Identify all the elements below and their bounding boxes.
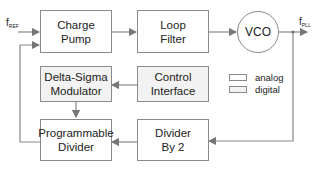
legend-analog-label: analog [255, 72, 284, 83]
programmable-divider-block: Programmable Divider [40, 119, 112, 161]
loop-filter-block: Loop Filter [137, 10, 209, 53]
delta-sigma-modulator-block: Delta-Sigma Modulator [40, 66, 112, 102]
legend-digital: digital [229, 84, 280, 95]
charge-pump-block: Charge Pump [40, 10, 112, 53]
divider-by-2-block: Divider By 2 [137, 119, 209, 161]
fref-label: fREF [6, 17, 19, 29]
digital-swatch [229, 86, 247, 93]
fpll-label: fPLL [299, 16, 311, 28]
control-interface-block: Control Interface [137, 66, 209, 102]
vco-block: VCO [237, 11, 279, 53]
legend-digital-label: digital [255, 84, 280, 95]
analog-swatch [229, 74, 247, 81]
legend-analog: analog [229, 72, 284, 83]
